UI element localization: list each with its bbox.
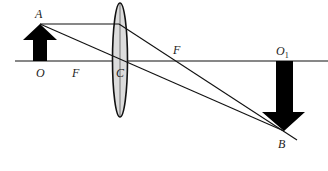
label-b: B (278, 138, 285, 150)
label-f-left: F (72, 67, 79, 79)
ray-parallel-refracted (119, 24, 297, 140)
ray-diagram: A O F C F O1 B (0, 0, 328, 171)
label-o1-main: O (276, 44, 285, 58)
label-o: O (36, 67, 45, 79)
label-c: C (116, 67, 124, 79)
image-arrow (262, 61, 305, 131)
label-f-right: F (173, 44, 180, 56)
label-o1: O1 (276, 45, 289, 60)
label-o1-sub: 1 (285, 51, 289, 60)
label-a: A (35, 8, 42, 20)
